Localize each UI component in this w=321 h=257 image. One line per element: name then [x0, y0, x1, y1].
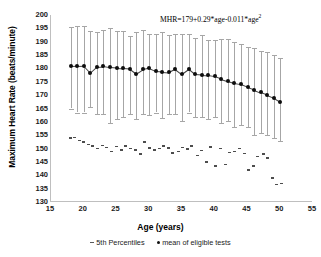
y-tick-label: 190 [22, 38, 48, 46]
error-bar-cap [252, 48, 257, 49]
percentile-data-point [73, 137, 76, 138]
error-bar [156, 34, 157, 113]
error-bar-cap [160, 32, 165, 33]
y-tick-label: 165 [22, 105, 48, 113]
error-bar [117, 31, 118, 119]
error-bar-cap [213, 117, 218, 118]
error-bar-cap [154, 113, 159, 114]
y-tick-label: 170 [22, 91, 48, 99]
percentile-data-point [228, 152, 231, 153]
mean-data-point [206, 73, 210, 77]
error-bar-cap [180, 34, 185, 35]
error-bar-cap [193, 117, 198, 118]
error-bar-cap [278, 58, 283, 59]
error-bar-cap [226, 39, 231, 40]
percentile-data-point [120, 149, 123, 150]
error-bar-cap [101, 114, 106, 115]
error-bar-cap [121, 117, 126, 118]
percentile-data-point [87, 144, 90, 145]
error-bar [123, 31, 124, 116]
y-tick-label: 195 [22, 24, 48, 32]
percentile-data-point [129, 148, 132, 149]
error-bar-cap [265, 135, 270, 136]
error-bar-cap [265, 52, 270, 53]
error-bar-cap [272, 55, 277, 56]
error-bar-cap [82, 26, 87, 27]
percentile-data-point [171, 152, 174, 153]
mean-data-point [167, 70, 171, 74]
mean-data-point [128, 67, 132, 71]
x-tick-label: 45 [235, 204, 259, 213]
percentile-data-point [256, 156, 259, 157]
error-bar-cap [206, 119, 211, 120]
percentile-data-point [110, 151, 113, 152]
error-bar-cap [147, 34, 152, 35]
error-bar-cap [259, 133, 264, 134]
x-tick-label: 25 [104, 204, 128, 213]
percentile-data-point [124, 145, 127, 146]
error-bar-cap [95, 32, 100, 33]
error-bar-cap [200, 35, 205, 36]
percentile-data-point [252, 165, 255, 166]
x-axis-title: Age (years) [0, 222, 321, 232]
mean-data-point [75, 64, 79, 68]
percentile-data-point [271, 177, 274, 178]
y-tick-label: 135 [22, 185, 48, 193]
x-tick-label: 35 [169, 204, 193, 213]
error-bar-cap [259, 51, 264, 52]
error-bar-cap [213, 40, 218, 41]
error-bar [84, 26, 85, 113]
x-tick-label: 40 [202, 204, 226, 213]
error-bar-cap [95, 114, 100, 115]
error-bar [90, 31, 91, 107]
error-bar-cap [147, 115, 152, 116]
error-bar [169, 35, 170, 114]
y-tick-label: 185 [22, 51, 48, 59]
error-bar-cap [232, 127, 237, 128]
error-bar-cap [219, 39, 224, 40]
percentile-data-point [91, 145, 94, 146]
y-tick-label: 155 [22, 131, 48, 139]
error-bar-cap [108, 28, 113, 29]
percentile-data-point [233, 151, 236, 152]
equation-text: MHR=179+0.29*age-0.011*age [160, 15, 259, 24]
percentile-data-point [82, 141, 85, 142]
mean-data-point [200, 73, 204, 77]
error-bar-cap [160, 118, 165, 119]
error-bar-cap [75, 26, 80, 27]
mean-data-point [246, 85, 250, 89]
percentile-data-point [78, 140, 81, 141]
chart-root: Maximum Heart Rate (beats/minute) 130135… [0, 0, 321, 257]
error-bar-cap [252, 135, 257, 136]
error-bar [77, 26, 78, 113]
mean-data-point [115, 66, 119, 70]
legend-label-mean: mean of eligible tests [162, 238, 231, 247]
mean-data-point [272, 96, 276, 100]
mean-data-point [232, 81, 236, 85]
x-tick-label: 20 [71, 204, 95, 213]
mean-data-point [88, 71, 92, 75]
percentile-data-point [186, 148, 189, 149]
regression-equation-annotation: MHR=179+0.29*age-0.011*age2 [160, 13, 261, 24]
percentile-data-point [105, 147, 108, 148]
percentile-data-point [96, 148, 99, 149]
percentile-data-point [139, 153, 142, 154]
error-bar [130, 36, 131, 113]
error-bar-cap [187, 113, 192, 114]
mean-data-point [278, 100, 282, 104]
percentile-data-point [247, 169, 250, 170]
error-bar [189, 34, 190, 113]
percentile-data-point [275, 184, 278, 185]
percentile-data-point [181, 147, 184, 148]
error-bar [103, 30, 104, 114]
y-tick-label: 150 [22, 145, 48, 153]
error-bar-cap [167, 35, 172, 36]
error-bar [175, 34, 176, 114]
error-bar-cap [82, 113, 87, 114]
error-bar [143, 30, 144, 114]
dash-marker-icon [90, 242, 94, 244]
error-bar-cap [108, 123, 113, 124]
percentile-data-point [262, 153, 265, 154]
percentile-data-point [266, 157, 269, 158]
x-tick-label: 55 [300, 204, 321, 213]
